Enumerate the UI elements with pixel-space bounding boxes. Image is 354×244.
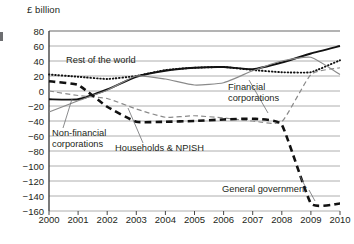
annotation-leader-line: [63, 99, 72, 128]
nonfinancial-label-line1: Non-financial: [52, 128, 106, 138]
y-tick-label: 40: [0, 56, 44, 67]
y-tick-label: −80: [0, 146, 44, 157]
financial-label-line2: corporations: [228, 93, 279, 103]
series-label-rest-of-world: Rest of the world: [66, 55, 136, 66]
y-tick-label: 0: [0, 86, 44, 97]
chart-container: £ billion 806040200−20−40−60−80−100−120−…: [0, 0, 354, 244]
series-layer: [49, 46, 340, 206]
x-tick-label: 2007: [242, 214, 263, 225]
y-tick-label: 20: [0, 71, 44, 82]
y-tick-label: 60: [0, 41, 44, 52]
y-tick-label: −60: [0, 131, 44, 142]
x-tick-label: 2009: [300, 214, 321, 225]
series-label-financial-corporations: Financial corporations: [228, 82, 279, 103]
x-tick-label: 2004: [155, 214, 176, 225]
x-tick-label: 2010: [329, 214, 350, 225]
x-tick-label: 2001: [68, 214, 89, 225]
x-tick-label: 2002: [97, 214, 118, 225]
financial-label-line1: Financial: [228, 82, 265, 92]
y-tick-label: −160: [0, 206, 44, 217]
y-tick-label: −40: [0, 116, 44, 127]
x-tick-label: 2005: [184, 214, 205, 225]
x-tick-label: 2000: [38, 214, 59, 225]
series-label-non-financial-corporations: Non-financial corporations: [52, 128, 106, 149]
annotation-leader-line: [128, 108, 143, 143]
series-label-households-npish: Households & NPISH: [115, 143, 204, 154]
x-tick-label: 2006: [213, 214, 234, 225]
x-tick-label: 2008: [271, 214, 292, 225]
chart-canvas: [0, 0, 354, 244]
y-tick-label: −100: [0, 161, 44, 172]
y-tick-label: 80: [0, 26, 44, 37]
y-tick-label: −120: [0, 176, 44, 187]
series-label-general-government: General government: [222, 184, 307, 195]
y-tick-label: −140: [0, 191, 44, 202]
nonfinancial-label-line2: corporations: [52, 139, 103, 149]
x-tick-label: 2003: [126, 214, 147, 225]
y-tick-label: −20: [0, 101, 44, 112]
